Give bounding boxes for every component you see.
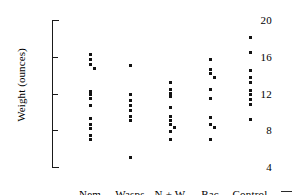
- data-point: [209, 88, 212, 91]
- data-point: [173, 126, 176, 129]
- y-axis-tick: [52, 20, 58, 21]
- y-axis-tick-label: 16: [250, 52, 272, 63]
- data-point: [249, 81, 252, 84]
- data-point: [129, 109, 132, 112]
- data-point: [209, 138, 212, 141]
- data-point: [169, 88, 172, 91]
- data-point: [209, 97, 212, 100]
- data-point: [169, 81, 172, 84]
- scan-artifact-rule: [281, 191, 292, 192]
- data-point: [129, 115, 132, 118]
- data-point: [249, 51, 252, 54]
- data-point: [89, 127, 92, 130]
- data-point: [249, 93, 252, 96]
- data-point: [209, 58, 212, 61]
- data-point: [89, 104, 92, 107]
- data-point: [129, 99, 132, 102]
- data-point: [169, 92, 172, 95]
- x-axis-label-control: Control: [220, 188, 280, 195]
- data-point: [249, 118, 252, 121]
- data-point: [169, 106, 172, 109]
- data-point: [89, 63, 92, 66]
- data-point: [89, 97, 92, 100]
- data-point: [93, 67, 96, 70]
- data-point: [89, 138, 92, 141]
- data-point: [249, 89, 252, 92]
- y-axis-tick: [52, 94, 58, 95]
- data-point: [129, 64, 132, 67]
- data-point: [169, 130, 172, 133]
- y-axis-title: Weight (ounces): [14, 10, 28, 160]
- y-axis-tick-label: 12: [250, 89, 272, 100]
- y-axis-tick: [52, 167, 58, 168]
- data-point: [89, 93, 92, 96]
- data-point: [129, 104, 132, 107]
- dot-plot-chart: Weight (ounces) 48121620 NemWaspsN + WBa…: [0, 0, 296, 195]
- data-point: [89, 134, 92, 137]
- data-point: [169, 138, 172, 141]
- data-point: [169, 115, 172, 118]
- data-point: [89, 53, 92, 56]
- data-point: [89, 90, 92, 93]
- data-point: [209, 123, 212, 126]
- data-point: [209, 116, 212, 119]
- y-axis-tick-label: 20: [250, 15, 272, 26]
- data-point: [129, 119, 132, 122]
- data-point: [213, 76, 216, 79]
- y-axis-tick-label: 8: [250, 125, 272, 136]
- data-point: [129, 93, 132, 96]
- y-axis-tick-label: 4: [250, 162, 272, 173]
- data-point: [249, 76, 252, 79]
- plot-area: 48121620 NemWaspsN + WBacControl: [52, 16, 280, 168]
- data-point: [169, 95, 172, 98]
- data-point: [249, 36, 252, 39]
- data-point: [89, 123, 92, 126]
- data-point: [249, 69, 252, 72]
- data-point: [249, 103, 252, 106]
- data-point: [249, 98, 252, 101]
- y-axis-tick: [52, 57, 58, 58]
- data-point: [209, 72, 212, 75]
- data-point: [89, 58, 92, 61]
- data-point: [129, 156, 132, 159]
- data-point: [169, 119, 172, 122]
- y-axis-tick: [52, 130, 58, 131]
- data-point: [209, 68, 212, 71]
- data-point: [89, 117, 92, 120]
- data-point: [169, 123, 172, 126]
- data-point: [213, 126, 216, 129]
